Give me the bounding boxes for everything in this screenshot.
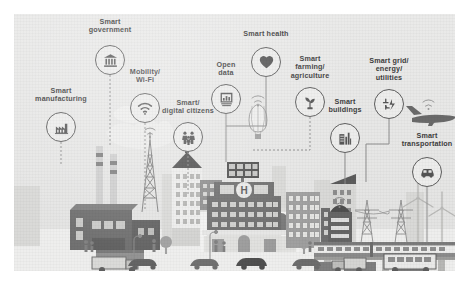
factory-icon (46, 112, 76, 142)
node-label-smart-transportation: Smart transportation (357, 132, 455, 149)
node-label-smart-government: Smart government (40, 18, 180, 35)
node-label-smart-health: Smart health (196, 30, 336, 38)
node-label-smart-grid: Smart grid/ energy/ utilities (319, 57, 455, 82)
people-icon (173, 122, 203, 152)
connector-farming (252, 117, 310, 150)
infographic-poster: H (14, 14, 455, 271)
bar-chart-icon (211, 84, 241, 114)
car-icon (412, 157, 442, 187)
buildings-icon (330, 123, 360, 153)
power-plug-icon (374, 89, 404, 119)
node-label-smart-manufacturing: Smart manufacturing (14, 87, 131, 104)
connector-grid (366, 119, 389, 182)
